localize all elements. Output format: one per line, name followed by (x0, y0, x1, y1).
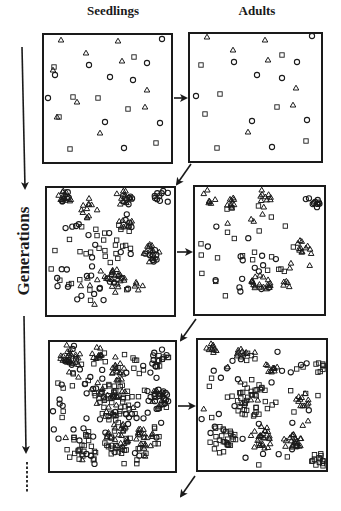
square-marker (53, 248, 57, 252)
circle-marker (55, 284, 60, 289)
circle-marker (145, 410, 150, 415)
square-marker (49, 267, 53, 271)
circle-marker (118, 249, 123, 254)
triangle-marker (112, 425, 118, 430)
circle-marker (121, 145, 126, 150)
triangle-marker (252, 349, 258, 354)
circle-marker (71, 343, 76, 348)
circle-marker (306, 408, 311, 413)
triangle-marker (298, 436, 304, 441)
square-marker (126, 107, 130, 111)
square-marker (95, 233, 99, 237)
circle-marker (199, 417, 204, 422)
triangle-marker (142, 104, 148, 109)
square-marker (67, 455, 71, 459)
triangle-marker (98, 268, 104, 273)
square-marker (152, 426, 156, 430)
triangle-marker (290, 102, 296, 107)
circle-marker (125, 286, 130, 291)
square-marker (61, 409, 65, 413)
square-marker (316, 393, 320, 397)
triangle-marker (63, 435, 69, 440)
square-marker (114, 238, 118, 242)
triangle-marker (225, 364, 231, 369)
square-marker (113, 243, 117, 247)
triangle-marker (262, 37, 268, 42)
circle-marker (141, 416, 146, 421)
triangle-marker (89, 351, 95, 356)
triangle-marker (118, 440, 124, 445)
square-marker (86, 438, 90, 442)
circle-marker (306, 196, 311, 201)
circle-marker (279, 75, 284, 80)
circle-marker (208, 430, 213, 435)
circle-marker (294, 59, 299, 64)
circle-marker (89, 255, 94, 260)
circle-marker (75, 297, 80, 302)
circle-marker (102, 119, 107, 124)
square-marker (212, 447, 216, 451)
square-marker (65, 448, 69, 452)
panel-frame (43, 34, 172, 163)
square-marker (122, 461, 126, 465)
circle-marker (56, 436, 61, 441)
square-marker (208, 440, 212, 444)
triangle-marker (274, 364, 280, 369)
triangle-marker (144, 87, 150, 92)
circle-marker (59, 267, 64, 272)
square-marker (215, 146, 219, 150)
triangle-marker (281, 436, 287, 441)
square-marker (156, 442, 160, 446)
circle-marker (159, 420, 164, 425)
circle-marker (91, 434, 96, 439)
square-marker (257, 229, 261, 233)
triangle-marker (205, 187, 211, 192)
triangle-marker (230, 47, 236, 52)
circle-marker (125, 421, 130, 426)
square-marker (89, 444, 93, 448)
circle-marker (124, 212, 129, 217)
triangle-marker (266, 192, 272, 197)
circle-marker (52, 72, 57, 77)
square-marker (128, 246, 132, 250)
circle-marker (214, 224, 219, 229)
triangle-marker (283, 444, 289, 449)
square-marker (67, 237, 71, 241)
square-marker (244, 358, 248, 362)
square-marker (209, 415, 213, 419)
triangle-marker (265, 57, 271, 62)
square-marker (263, 399, 267, 403)
triangle-marker (287, 265, 293, 270)
circle-marker (290, 420, 295, 425)
square-marker (252, 250, 256, 254)
triangle-marker (140, 283, 146, 288)
triangle-marker (293, 85, 299, 90)
triangle-marker (201, 406, 207, 411)
square-marker (101, 238, 105, 242)
square-marker (136, 394, 140, 398)
square-marker (96, 96, 100, 100)
circle-marker (275, 349, 280, 354)
triangle-marker (245, 129, 251, 134)
square-marker (152, 425, 156, 429)
circle-marker (86, 62, 91, 67)
square-marker (103, 254, 107, 258)
square-marker (232, 236, 236, 240)
circle-marker (240, 276, 245, 281)
circle-marker (304, 117, 309, 122)
circle-marker (260, 263, 265, 268)
square-marker (84, 252, 88, 256)
square-marker (312, 452, 316, 456)
generations-diagram (0, 0, 341, 511)
square-marker (60, 415, 64, 419)
triangle-marker (94, 344, 100, 349)
square-marker (114, 251, 118, 255)
circle-marker (276, 452, 281, 457)
square-marker (295, 367, 299, 371)
triangle-marker (58, 37, 64, 42)
circle-marker (77, 367, 82, 372)
circle-marker (64, 267, 69, 272)
square-marker (88, 288, 92, 292)
triangle-marker (225, 202, 231, 207)
square-marker (136, 447, 140, 451)
